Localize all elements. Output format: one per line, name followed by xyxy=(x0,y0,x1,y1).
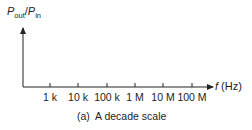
tick-label: 1 M xyxy=(126,92,144,103)
tick-label: 10 k xyxy=(68,92,88,103)
x-axis-label: f (Hz) xyxy=(215,81,242,92)
y-axis-label: Pout/Pin xyxy=(7,6,41,20)
x-ticks xyxy=(50,83,192,87)
tick-label: 1 k xyxy=(43,92,57,103)
tick-label: 100 M xyxy=(177,92,206,103)
figure-caption: (a) A decade scale xyxy=(77,111,166,122)
y-sub-out: out xyxy=(14,11,24,20)
tick-label: 100 k xyxy=(94,92,120,103)
x-unit: (Hz) xyxy=(218,80,242,92)
tick-label: 10 M xyxy=(151,92,174,103)
y-sub-in: in xyxy=(35,11,41,20)
